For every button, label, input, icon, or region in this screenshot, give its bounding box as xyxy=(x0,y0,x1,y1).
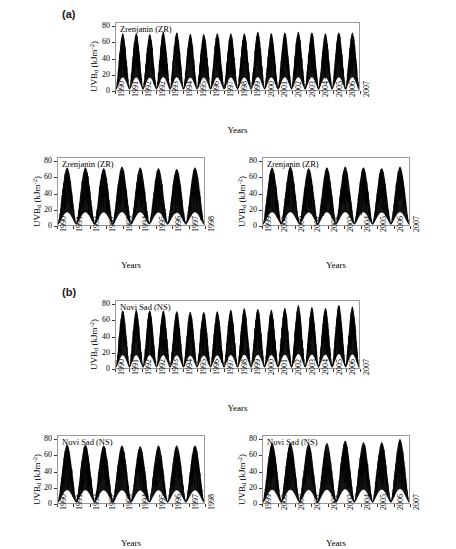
x-tick-mark xyxy=(189,504,190,507)
x-tick-label: 2003 xyxy=(347,216,355,232)
x-tick-label: 1994 xyxy=(186,359,194,375)
x-tick-mark xyxy=(295,226,296,229)
y-axis-title-ns_early: UVBd (kJm-2) xyxy=(31,454,42,505)
y-tick-mark xyxy=(112,369,115,370)
x-tick-mark xyxy=(73,504,74,507)
y-tick-mark xyxy=(54,455,57,456)
x-tick-label: 2000 xyxy=(281,494,289,510)
y-tick-mark xyxy=(259,177,262,178)
x-tick-mark xyxy=(183,369,184,372)
x-tick-label: 2006 xyxy=(349,81,357,97)
x-tick-mark xyxy=(278,504,279,507)
x-tick-mark xyxy=(328,504,329,507)
y-axis-title-zr_full: UVBd (kJm-2) xyxy=(88,41,99,92)
x-tick-mark xyxy=(333,91,334,94)
y-tick-mark xyxy=(54,226,57,227)
series-title-zr_early: Zrenjanin (ZR) xyxy=(62,159,114,169)
chart-zr_full: Zrenjanin (ZR)020406080UVBd (kJm-2)19901… xyxy=(0,0,456,549)
x-tick-label: 2005 xyxy=(380,494,388,510)
x-tick-mark xyxy=(224,369,225,372)
x-tick-label: 1999 xyxy=(265,494,273,510)
uvb-time-series-figure: (a) (b) Zrenjanin (ZR)020406080UVBd (kJm… xyxy=(0,0,456,549)
series-title-ns_full: Novi Sad (NS) xyxy=(120,302,171,312)
x-tick-mark xyxy=(197,369,198,372)
x-tick-mark xyxy=(410,226,411,229)
y-tick-mark xyxy=(259,226,262,227)
x-tick-label: 2002 xyxy=(331,494,339,510)
x-tick-label: 2005 xyxy=(380,216,388,232)
x-tick-mark xyxy=(346,369,347,372)
y-tick-label: 60 xyxy=(91,316,110,324)
x-tick-label: 2001 xyxy=(314,216,322,232)
y-tick-label: 20 xyxy=(238,484,257,492)
x-tick-label: 1994 xyxy=(142,494,150,510)
x-tick-mark xyxy=(295,504,296,507)
series-title-ns_early: Novi Sad (NS) xyxy=(62,437,113,447)
x-tick-label: 1998 xyxy=(241,359,249,375)
x-tick-mark xyxy=(57,504,58,507)
x-tick-label: 2007 xyxy=(413,494,421,510)
x-tick-label: 1990 xyxy=(118,359,126,375)
x-tick-label: 1994 xyxy=(142,216,150,232)
x-axis-title-ns_late: Years xyxy=(262,538,410,548)
x-tick-mark xyxy=(73,226,74,229)
x-axis-title-ns_full: Years xyxy=(115,403,360,413)
x-tick-mark xyxy=(224,91,225,94)
panel-letter-a: (a) xyxy=(62,8,75,20)
x-tick-mark xyxy=(262,226,263,229)
x-tick-label: 2007 xyxy=(363,359,371,375)
chart-ns_early: Novi Sad (NS)020406080UVBd (kJm-2)199019… xyxy=(0,0,456,549)
x-axis-title-zr_early: Years xyxy=(57,260,205,270)
x-tick-label: 1992 xyxy=(109,216,117,232)
x-tick-label: 1995 xyxy=(159,494,167,510)
x-tick-mark xyxy=(129,369,130,372)
x-tick-label: 1996 xyxy=(213,359,221,375)
x-tick-mark xyxy=(238,91,239,94)
x-tick-label: 2003 xyxy=(309,81,317,97)
y-tick-mark xyxy=(112,59,115,60)
x-tick-mark xyxy=(344,226,345,229)
x-tick-label: 1997 xyxy=(192,216,200,232)
x-tick-mark xyxy=(90,226,91,229)
x-tick-label: 2002 xyxy=(295,359,303,375)
x-tick-label: 2004 xyxy=(364,216,372,232)
series-zr_early xyxy=(58,158,204,225)
x-tick-mark xyxy=(90,504,91,507)
x-tick-label: 2001 xyxy=(314,494,322,510)
x-tick-label: 1993 xyxy=(172,81,180,97)
y-tick-mark xyxy=(54,161,57,162)
y-tick-label: 40 xyxy=(33,468,52,476)
x-tick-label: 1992 xyxy=(145,81,153,97)
x-tick-label: 2001 xyxy=(281,81,289,97)
y-tick-label: 40 xyxy=(238,190,257,198)
panel-letter-b: (b) xyxy=(62,286,76,298)
x-tick-label: 1997 xyxy=(192,494,200,510)
x-tick-label: 1992 xyxy=(159,81,167,97)
y-tick-mark xyxy=(112,353,115,354)
y-tick-label: 0 xyxy=(33,500,52,508)
x-tick-mark xyxy=(278,91,279,94)
x-tick-label: 1999 xyxy=(254,81,262,97)
x-tick-mark xyxy=(238,369,239,372)
x-tick-mark xyxy=(410,504,411,507)
y-tick-mark xyxy=(112,337,115,338)
x-tick-mark xyxy=(129,91,130,94)
y-tick-mark xyxy=(54,177,57,178)
x-tick-mark xyxy=(394,226,395,229)
x-tick-mark xyxy=(197,91,198,94)
y-axis-title-zr_late: UVBd (kJm-2) xyxy=(236,176,247,227)
y-tick-label: 80 xyxy=(33,435,52,443)
x-tick-label: 1991 xyxy=(132,81,140,97)
x-tick-label: 2001 xyxy=(281,359,289,375)
y-tick-label: 40 xyxy=(91,55,110,63)
x-tick-label: 2005 xyxy=(336,81,344,97)
x-axis-title-zr_late: Years xyxy=(262,260,410,270)
x-tick-label: 1998 xyxy=(208,494,216,510)
y-tick-mark xyxy=(259,504,262,505)
y-tick-label: 0 xyxy=(33,222,52,230)
x-tick-mark xyxy=(251,91,252,94)
x-tick-mark xyxy=(306,369,307,372)
y-axis-title-zr_early: UVBd (kJm-2) xyxy=(31,176,42,227)
x-tick-mark xyxy=(189,226,190,229)
x-tick-mark xyxy=(361,226,362,229)
